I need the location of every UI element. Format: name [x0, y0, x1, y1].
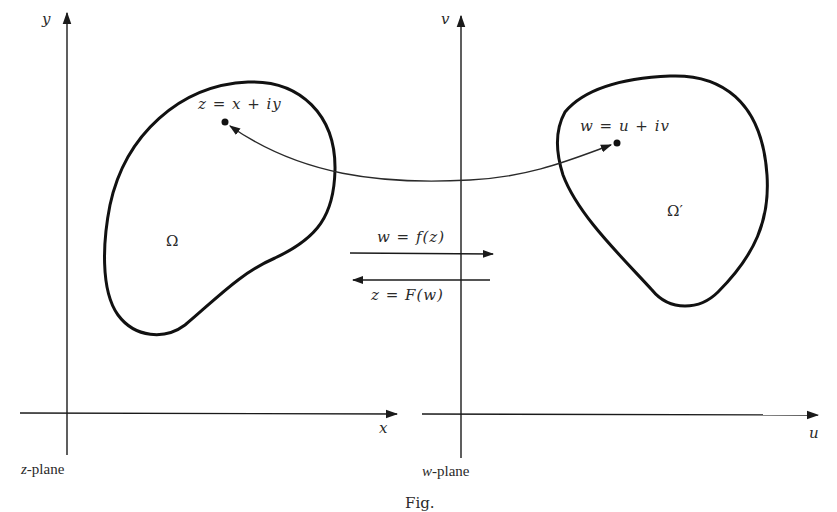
figure-caption: Fig.: [405, 496, 435, 511]
inverse-map-label: z = F(w): [371, 288, 444, 303]
x-axis: [20, 413, 397, 414]
region-omega-label: Ω: [166, 234, 178, 249]
x-axis-label: x: [379, 421, 387, 436]
y-axis-label: y: [42, 12, 50, 27]
point-z-label: z = x + iy: [198, 97, 282, 112]
w-plane-label: w-plane: [422, 464, 470, 479]
z-plane-suffix: -plane: [27, 461, 64, 477]
region-omega-prime-boundary: [557, 76, 767, 306]
region-omega-boundary: [105, 82, 335, 335]
w-plane-suffix: -plane: [432, 463, 469, 479]
point-w-label: w = u + iv: [580, 119, 670, 134]
forward-map-arrow: [350, 253, 493, 254]
u-axis: [422, 414, 818, 415]
z-plane-axes: [20, 13, 397, 455]
u-axis-label: u: [809, 426, 819, 441]
v-axis-label: v: [441, 12, 449, 27]
point-z: [222, 119, 229, 126]
region-omega-prime-label: Ω′: [667, 204, 683, 219]
point-w: [614, 140, 621, 147]
forward-map-label: w = f(z): [377, 230, 445, 245]
z-plane-label: z-plane: [21, 462, 64, 477]
correspondence-arrow: [230, 126, 611, 181]
w-plane-var: w: [422, 463, 432, 479]
